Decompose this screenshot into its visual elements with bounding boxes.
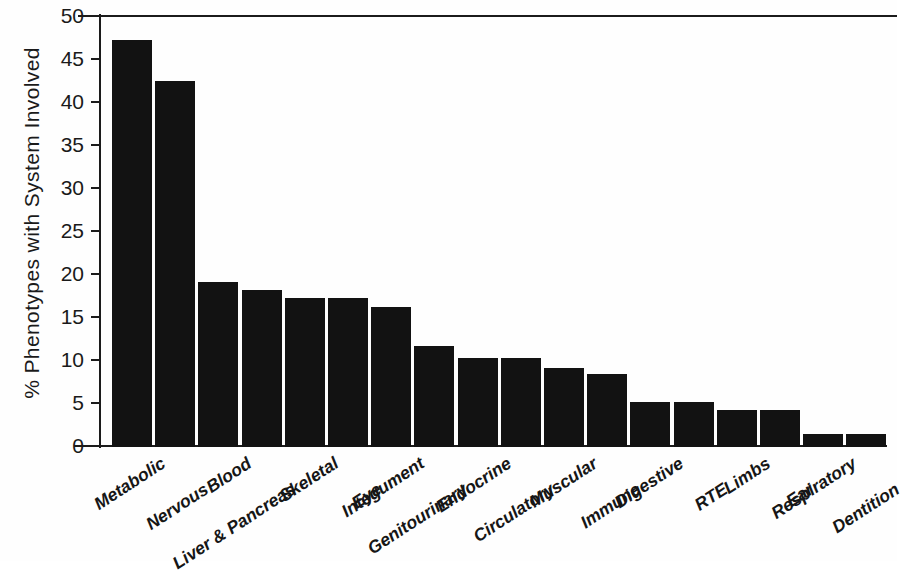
bar: [803, 434, 843, 447]
bar: [242, 290, 282, 447]
bar: [630, 402, 670, 447]
bar: [501, 358, 541, 447]
bar: [198, 282, 238, 447]
bar: [285, 298, 325, 447]
bar: [458, 358, 498, 447]
bar: [371, 307, 411, 447]
bar: [846, 434, 886, 447]
bar: [328, 298, 368, 447]
bar: [414, 346, 454, 447]
bar: [674, 402, 714, 447]
bar-series: [0, 0, 897, 447]
bar: [112, 40, 152, 447]
bar: [587, 374, 627, 447]
x-axis-category-labels: MetabolicNervousBloodLiver & PancreasSke…: [0, 447, 897, 561]
bar: [544, 368, 584, 447]
bar: [155, 81, 195, 447]
bar: [717, 410, 757, 447]
bar: [760, 410, 800, 447]
